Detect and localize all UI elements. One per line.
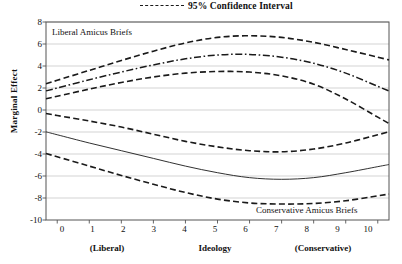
dashed-line-icon bbox=[140, 5, 184, 6]
x-tick-label: 2 bbox=[113, 224, 133, 234]
legend-label-confidence-interval: 95% Confidence Interval bbox=[188, 1, 293, 11]
annotation-conservative-amicus-briefs: Conservative Amicus Briefs bbox=[256, 205, 357, 215]
marginal-effect-chart: 95% Confidence Interval Marginal Effect … bbox=[0, 0, 402, 264]
x-tick-label: 9 bbox=[327, 224, 347, 234]
x-tick-label: 3 bbox=[144, 224, 164, 234]
y-tick-label: -8 bbox=[20, 193, 42, 203]
y-tick-label: -6 bbox=[20, 171, 42, 181]
x-tick-label: 7 bbox=[266, 224, 286, 234]
y-tick-label: -4 bbox=[20, 149, 42, 159]
x-label-ideology: Ideology bbox=[198, 243, 231, 253]
y-tick-label: 6 bbox=[20, 39, 42, 49]
x-tick-label: 0 bbox=[52, 224, 72, 234]
x-axis-tick-labels: 0 1 2 3 4 5 6 7 8 9 10 bbox=[0, 224, 402, 238]
x-label-conservative: (Conservative) bbox=[295, 243, 351, 253]
y-tick-label: 0 bbox=[20, 105, 42, 115]
y-tick-label: 8 bbox=[20, 17, 42, 27]
x-tick-label: 8 bbox=[297, 224, 317, 234]
annotation-liberal-amicus-briefs: Liberal Amicus Briefs bbox=[52, 27, 132, 37]
x-tick-label: 6 bbox=[236, 224, 256, 234]
y-tick-label: -2 bbox=[20, 127, 42, 137]
x-tick-label: 4 bbox=[174, 224, 194, 234]
x-tick-label: 10 bbox=[358, 224, 378, 234]
chart-legend: 95% Confidence Interval bbox=[0, 0, 402, 20]
x-label-liberal: (Liberal) bbox=[90, 243, 125, 253]
y-tick-label: 4 bbox=[20, 61, 42, 71]
x-tick-label: 1 bbox=[83, 224, 103, 234]
y-tick-label: 2 bbox=[20, 83, 42, 93]
x-axis-category-labels: (Liberal) Ideology (Conservative) bbox=[0, 243, 402, 259]
x-tick-label: 5 bbox=[205, 224, 225, 234]
